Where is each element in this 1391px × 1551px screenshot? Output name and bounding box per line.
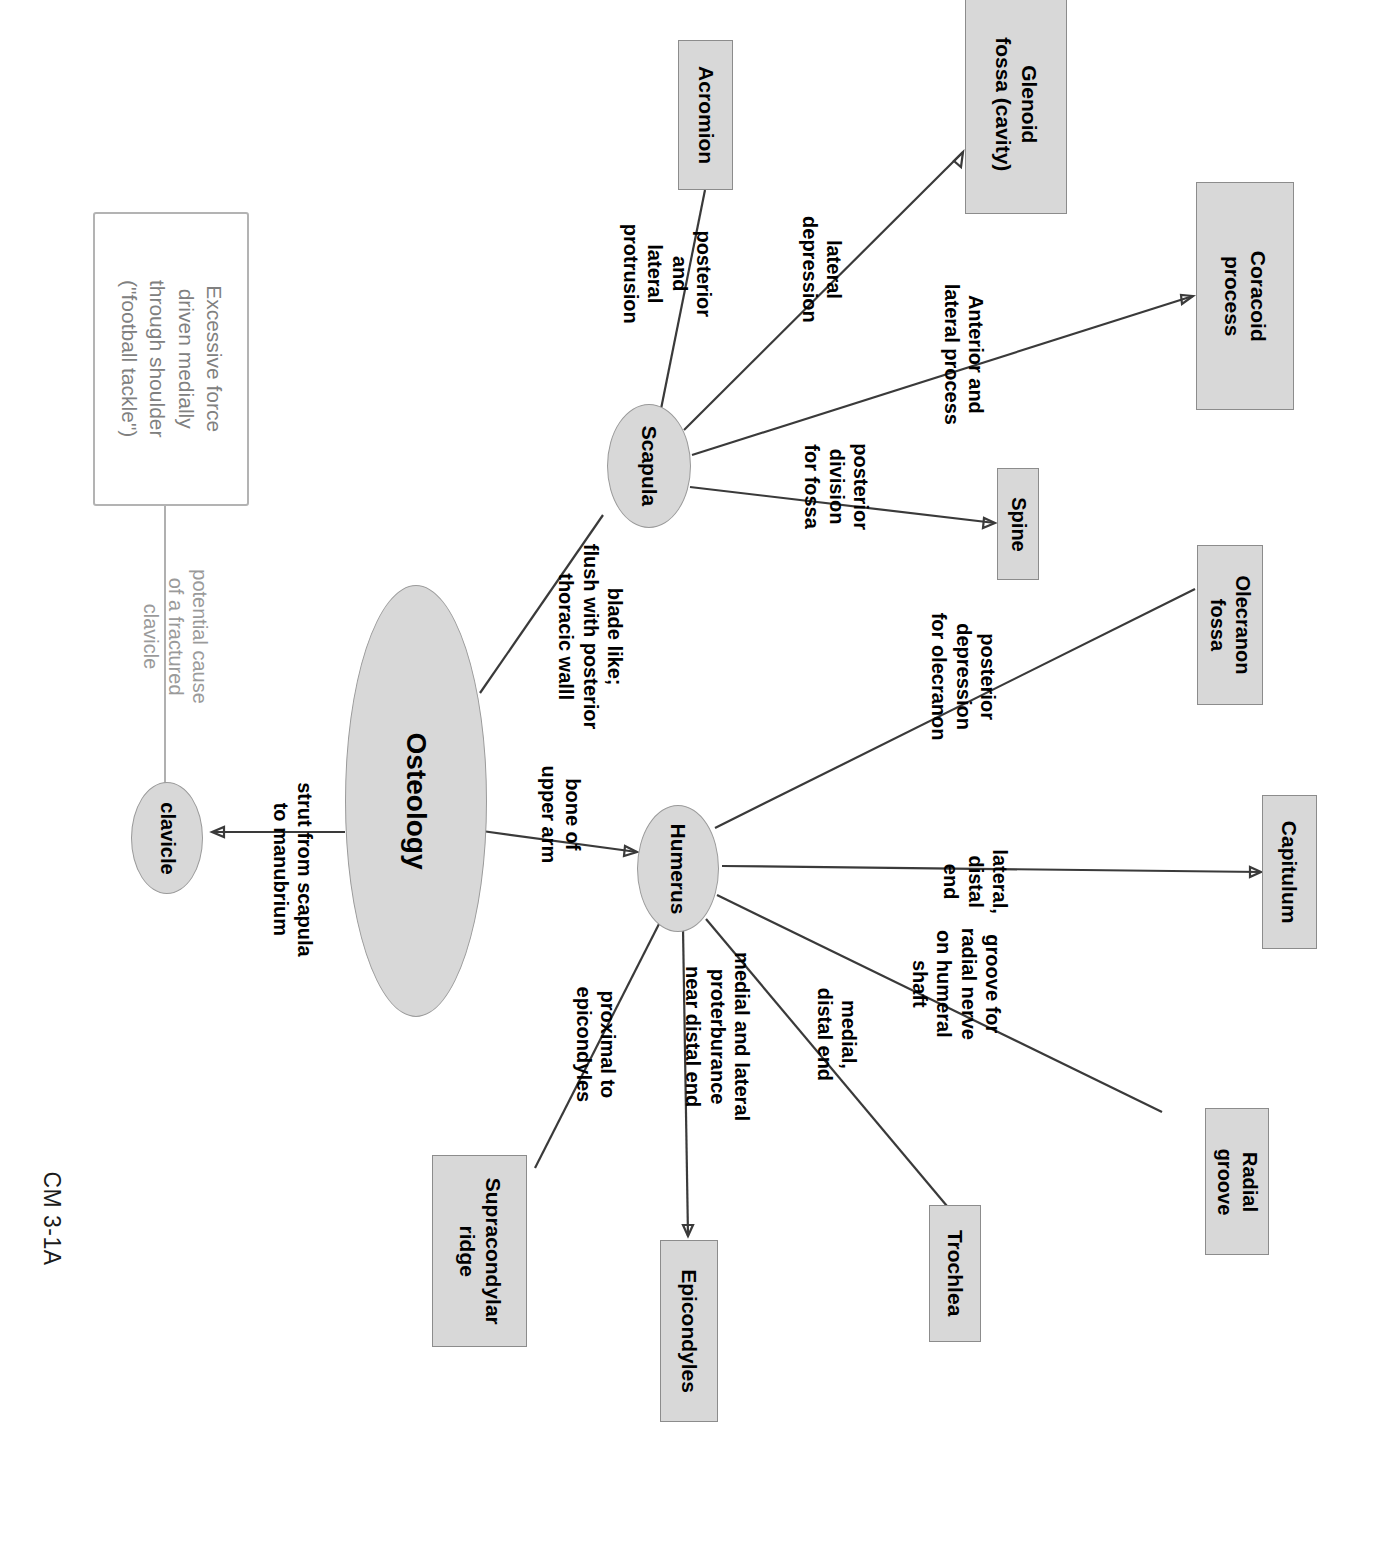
sheet-label: CM 3-1A: [4, 1205, 124, 1245]
edge-label-potential-cause: potential cause of a fractured clavicle: [108, 600, 196, 790]
node-capitulum[interactable]: Capitulum: [1262, 795, 1317, 949]
node-clavicle[interactable]: clavicle: [131, 782, 203, 894]
edge-label-posterior-depression: posterior depression for olecranon: [900, 640, 994, 830]
arrowhead-clavicle: [212, 827, 224, 837]
arrowhead-glenoid: [954, 152, 963, 167]
edge-label-medial-distal: medial, distal end: [790, 1010, 852, 1150]
node-spine[interactable]: Spine: [997, 468, 1039, 580]
concept-map-page: CM 3-1A Osteology: [0, 0, 1391, 1551]
edge-label-posterior-division: posterior division for fossa: [790, 450, 882, 580]
edge-label-strut: strut from scapula to manubrium: [205, 845, 275, 1015]
arrowhead-capitulum: [1250, 867, 1261, 877]
arrowhead-spine: [983, 518, 995, 528]
note-excessive-force: Excessive force driven medially through …: [93, 212, 249, 506]
node-humerus[interactable]: Humerus: [637, 805, 719, 932]
node-epicondyles[interactable]: Epicondyles: [660, 1240, 718, 1422]
edge-label-lateral-depression: lateral depression: [768, 245, 828, 405]
edge-label-medial-lateral-proterburance: medial and lateral proterburance near di…: [633, 1000, 727, 1215]
node-radial-groove[interactable]: Radial groove: [1205, 1108, 1269, 1255]
arrowhead-humerus: [624, 846, 637, 856]
arrowhead-epicondyles: [683, 1225, 693, 1236]
edge-label-anterior-lateral: Anterior and lateral process: [893, 330, 955, 510]
edge-label-proximal-epicondyles: proximal to epicondyles: [538, 1020, 600, 1190]
arrowhead-coracoid: [1181, 295, 1193, 304]
node-olecranon-fossa[interactable]: Olecranon fossa: [1197, 545, 1263, 705]
node-trochlea[interactable]: Trochlea: [929, 1205, 981, 1342]
edge-label-groove-radial: groove for radial nerve on humeral shaft: [895, 935, 1017, 1105]
node-glenoid-fossa[interactable]: Glenoid fossa (cavity): [965, 0, 1067, 214]
edge-label-bone-upper-arm: bone of upper arm: [512, 790, 584, 920]
edge-label-protrusion: posterior and lateral protrusion: [608, 225, 726, 395]
node-coracoid-process[interactable]: Coracoid process: [1196, 182, 1294, 410]
node-acromion[interactable]: Acromion: [678, 40, 733, 190]
node-supracondylar-ridge[interactable]: Supracondylar ridge: [432, 1155, 527, 1347]
node-scapula[interactable]: Scapula: [607, 404, 691, 528]
node-osteology[interactable]: Osteology: [345, 585, 487, 1017]
